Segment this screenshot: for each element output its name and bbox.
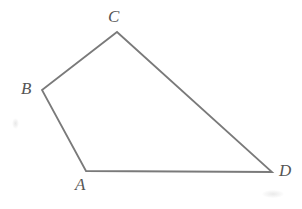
vertex-label-b: B [21,80,31,97]
vertex-label-a: A [75,176,85,193]
quadrilateral-outline [42,32,272,172]
quadrilateral-shape [0,0,302,209]
quadrilateral-figure: C B A D [0,0,302,209]
vertex-label-d: D [279,162,291,179]
vertex-label-c: C [108,8,119,25]
